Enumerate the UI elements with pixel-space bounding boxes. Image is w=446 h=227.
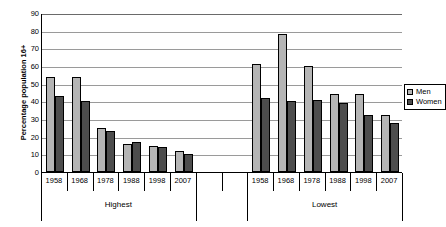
x-tick-label-highest-1968: 1968 — [67, 177, 93, 185]
bar-highest-1978-men — [97, 128, 106, 172]
x-tick-label-highest-2007: 2007 — [170, 177, 196, 185]
x-tick-label-highest-1978: 1978 — [93, 177, 119, 185]
bar-highest-1958-women — [55, 96, 64, 172]
y-tick-label-80: 80 — [9, 28, 39, 36]
bar-highest-1988-men — [123, 144, 132, 172]
group-separator — [402, 191, 403, 221]
x-tick-label-lowest-1998: 1998 — [350, 177, 376, 185]
bar-lowest-1958-men — [252, 64, 261, 172]
category-separator — [196, 173, 197, 191]
bar-highest-2007-women — [184, 154, 193, 172]
bar-lowest-2007-women — [390, 123, 399, 172]
x-tick-label-lowest-1978: 1978 — [299, 177, 325, 185]
legend-swatch-women-icon — [407, 99, 413, 105]
bar-lowest-1988-women — [339, 103, 348, 172]
x-tick-label-highest-1958: 1958 — [41, 177, 67, 185]
bar-lowest-1998-men — [355, 94, 364, 172]
x-tick-label-lowest-2007: 2007 — [376, 177, 402, 185]
group-separator — [196, 191, 197, 221]
y-tick-label-0: 0 — [9, 169, 39, 177]
bar-lowest-1998-women — [364, 115, 373, 172]
legend-label-women: Women — [416, 98, 442, 106]
x-tick-label-lowest-1968: 1968 — [273, 177, 299, 185]
bar-highest-1998-women — [158, 147, 167, 172]
x-tick-label-highest-1988: 1988 — [118, 177, 144, 185]
category-separator — [402, 173, 403, 191]
y-tick-label-50: 50 — [9, 81, 39, 89]
y-tick-label-70: 70 — [9, 46, 39, 54]
x-tick-label-highest-1998: 1998 — [144, 177, 170, 185]
bar-lowest-2007-men — [381, 115, 390, 172]
bar-lowest-1968-women — [287, 101, 296, 172]
bar-highest-1968-women — [81, 101, 90, 172]
x-axis-category-labels: 1958196819781988199820071958196819781988… — [41, 173, 402, 191]
legend-label-men: Men — [416, 88, 431, 96]
plot-area — [41, 14, 402, 173]
bar-lowest-1958-women — [261, 98, 270, 172]
legend-item-women: Women — [407, 97, 442, 107]
y-tick-label-10: 10 — [9, 152, 39, 160]
y-tick-label-20: 20 — [9, 134, 39, 142]
group-label-highest: Highest — [41, 200, 196, 209]
category-separator — [222, 173, 223, 191]
bar-lowest-1978-men — [304, 66, 313, 172]
y-tick-label-30: 30 — [9, 116, 39, 124]
y-tick-label-60: 60 — [9, 63, 39, 71]
bar-highest-1988-women — [132, 142, 141, 172]
x-tick-label-lowest-1958: 1958 — [247, 177, 273, 185]
bar-highest-1968-men — [72, 77, 81, 172]
bar-lowest-1968-men — [278, 34, 287, 172]
group-label-lowest: Lowest — [247, 200, 402, 209]
bar-highest-1998-men — [149, 146, 158, 173]
y-tick-label-40: 40 — [9, 99, 39, 107]
bar-lowest-1978-women — [313, 100, 322, 172]
legend-swatch-men-icon — [407, 89, 413, 95]
bar-lowest-1988-men — [330, 94, 339, 172]
bar-highest-2007-men — [175, 151, 184, 172]
bar-highest-1958-men — [46, 77, 55, 172]
y-tick-label-90: 90 — [9, 10, 39, 18]
legend-item-men: Men — [407, 87, 442, 97]
legend: Men Women — [404, 84, 446, 110]
x-axis-group-labels: HighestLowest — [41, 191, 402, 221]
x-tick-label-lowest-1988: 1988 — [325, 177, 351, 185]
bars-layer — [42, 14, 402, 172]
bar-highest-1978-women — [106, 131, 115, 172]
y-axis-title: Percentage population 16+ — [19, 18, 28, 168]
